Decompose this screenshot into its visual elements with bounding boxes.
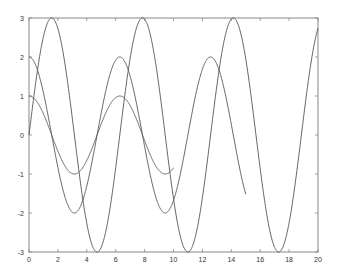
y-tick-label: 3 [20, 15, 24, 22]
x-tick-label: 12 [199, 256, 207, 263]
x-tick-label: 2 [56, 256, 60, 263]
x-tick-label: 8 [143, 256, 147, 263]
y-tick-label: -3 [18, 249, 24, 256]
x-tick-label: 4 [85, 256, 89, 263]
x-tick-label: 14 [227, 256, 235, 263]
y-tick-label: -1 [18, 171, 24, 178]
x-tick-label: 0 [27, 256, 31, 263]
plot-area [29, 18, 318, 252]
y-tick-label: 1 [20, 93, 24, 100]
line-chart: 02468101214161820 -3-2-10123 [0, 0, 337, 278]
x-tick-label: 18 [285, 256, 293, 263]
y-tick-label: 2 [20, 54, 24, 61]
x-tick-label: 20 [314, 256, 322, 263]
x-tick-label: 10 [170, 256, 178, 263]
x-tick-label: 16 [256, 256, 264, 263]
x-tick-label: 6 [114, 256, 118, 263]
y-tick-label: 0 [20, 132, 24, 139]
y-tick-label: -2 [18, 210, 24, 217]
